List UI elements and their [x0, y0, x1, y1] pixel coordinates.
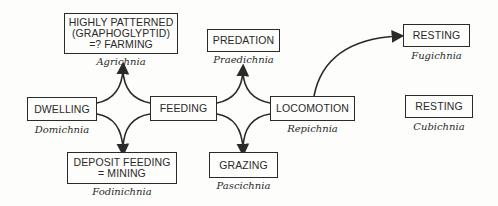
- latin-domichnia: Domichnia: [27, 124, 97, 135]
- node-fodinichnia: DEPOSIT FEEDING = MINING: [67, 152, 177, 184]
- latin-pascichnia: Pascichnia: [209, 180, 278, 191]
- latin-fugichnia: Fugichnia: [403, 50, 470, 61]
- node-cubichnia: RESTING: [405, 95, 473, 118]
- latin-praedichnia: Praedichnia: [207, 54, 280, 65]
- node-repichnia: LOCOMOTION: [270, 96, 355, 121]
- latin-repichnia: Repichnia: [270, 123, 355, 134]
- node-domichnia: DWELLING: [27, 97, 97, 121]
- latin-fodinichnia: Fodinichnia: [67, 186, 177, 197]
- latin-agrichnia: Agrichnia: [64, 56, 178, 67]
- node-feeding: FEEDING: [150, 96, 217, 121]
- node-agrichnia: HIGHLY PATTERNED (GRAPHOGLYPTID) =? FARM…: [64, 13, 178, 54]
- latin-cubichnia: Cubichnia: [405, 121, 473, 132]
- node-fugichnia: RESTING: [403, 24, 470, 47]
- node-praedichnia: PREDATION: [207, 29, 280, 52]
- node-pascichnia: GRAZING: [209, 152, 278, 178]
